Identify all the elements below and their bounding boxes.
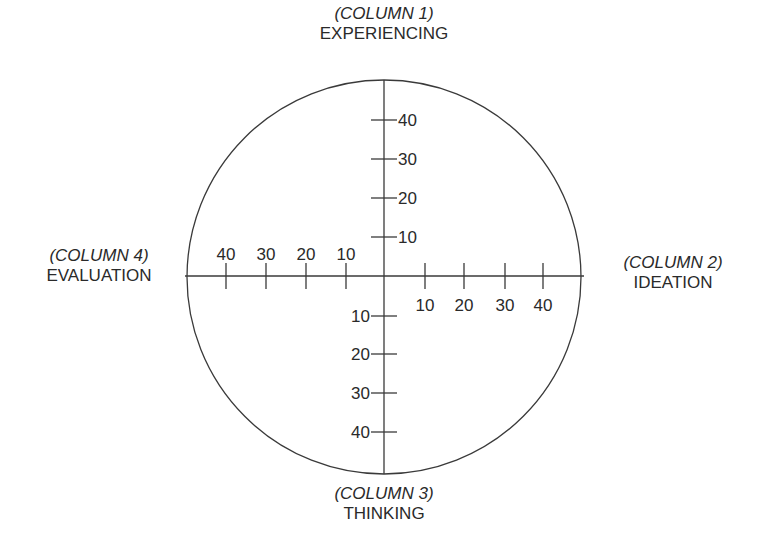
axis-name: EVALUATION	[24, 266, 174, 286]
tick-label-down: 10	[351, 307, 370, 326]
tick-label-down: 20	[351, 345, 370, 364]
column-label: (COLUMN 2)	[598, 253, 748, 273]
axis-label-left: (COLUMN 4) EVALUATION	[24, 246, 174, 286]
axis-name: IDEATION	[598, 273, 748, 293]
tick-label-down: 40	[351, 423, 370, 442]
tick-label-up: 20	[398, 189, 417, 208]
tick-label-right: 40	[534, 296, 553, 315]
tick-label-down: 30	[351, 384, 370, 403]
axis-label-top: (COLUMN 1) EXPERIENCING	[284, 4, 484, 44]
tick-label-right: 10	[416, 296, 435, 315]
tick-label-left: 10	[337, 245, 356, 264]
tick-label-left: 20	[297, 245, 316, 264]
axis-name: EXPERIENCING	[284, 24, 484, 44]
tick-label-up: 30	[398, 150, 417, 169]
tick-label-up: 40	[398, 111, 417, 130]
tick-label-left: 30	[257, 245, 276, 264]
axis-name: THINKING	[284, 504, 484, 524]
tick-label-right: 20	[455, 296, 474, 315]
column-label: (COLUMN 3)	[284, 484, 484, 504]
tick-label-up: 10	[398, 228, 417, 247]
axis-label-right: (COLUMN 2) IDEATION	[598, 253, 748, 293]
column-label: (COLUMN 4)	[24, 246, 174, 266]
tick-label-right: 30	[496, 296, 515, 315]
tick-label-left: 40	[217, 245, 236, 264]
column-label: (COLUMN 1)	[284, 4, 484, 24]
axis-label-bottom: (COLUMN 3) THINKING	[284, 484, 484, 524]
